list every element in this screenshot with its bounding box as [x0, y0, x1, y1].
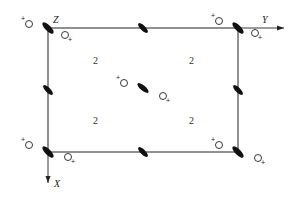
plus-sign: +	[21, 15, 25, 22]
site-label: 2	[189, 55, 194, 66]
plus-sign: +	[258, 34, 262, 41]
circle-plus-tr-top-left	[216, 18, 223, 25]
circle-plus-bl-top-left	[26, 142, 33, 149]
ellipse-center	[136, 82, 150, 95]
plus-sign: +	[211, 12, 215, 19]
site-label: 2	[189, 115, 194, 126]
plus-sign: +	[68, 36, 72, 43]
site-label: 2	[93, 115, 98, 126]
circle-plus-center-top-left	[121, 80, 128, 87]
plus-sign: +	[21, 136, 25, 143]
z-axis-label: Z	[53, 14, 59, 25]
plus-sign: +	[166, 97, 170, 104]
plus-sign: +	[261, 159, 265, 166]
plus-sign: +	[116, 74, 120, 81]
circle-plus-br-top-left	[216, 142, 223, 149]
circle-plus-tl-top-left	[26, 21, 33, 28]
plus-sign: +	[71, 158, 75, 165]
x-axis-label: X	[53, 178, 61, 189]
y-axis-arrow	[238, 26, 284, 31]
y-axis-label: Y	[262, 14, 269, 25]
plus-sign: +	[211, 136, 215, 143]
site-label: 2	[93, 55, 98, 66]
lattice-diagram: Z Y X + + + + + + + + +	[0, 0, 301, 199]
